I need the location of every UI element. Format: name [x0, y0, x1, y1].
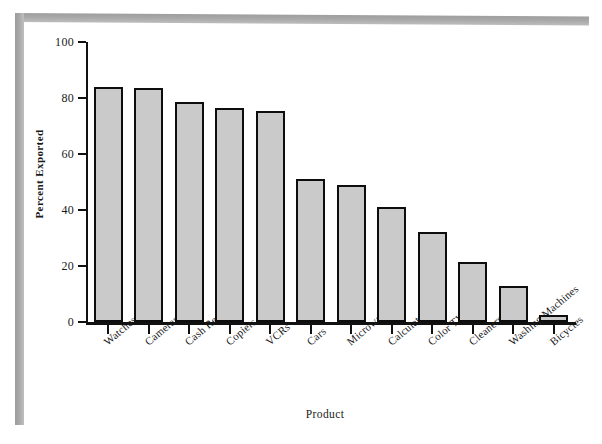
bar: [458, 262, 487, 322]
y-axis-tick-label: 80: [48, 92, 74, 104]
bar: [94, 87, 123, 322]
y-axis-tick: [78, 265, 86, 267]
figure-page: Percent Exported 020406080100WatchesCame…: [0, 0, 602, 444]
y-axis-tick: [78, 209, 86, 211]
bar-chart-plot: Percent Exported 020406080100WatchesCame…: [0, 0, 602, 444]
x-axis-title-text: Product: [306, 408, 345, 420]
y-axis-tick: [78, 153, 86, 155]
bar: [377, 207, 406, 322]
bar: [175, 102, 204, 322]
y-axis-title: Percent Exported: [30, 100, 48, 260]
bar: [418, 232, 447, 322]
y-axis-title-text: Percent Exported: [33, 98, 45, 250]
x-axis-title: Product: [0, 408, 602, 420]
y-axis-tick-label: 20: [48, 260, 74, 272]
bar: [256, 111, 285, 322]
bar: [337, 185, 366, 322]
y-axis-tick-label: 100: [48, 36, 74, 48]
y-axis-tick: [78, 97, 86, 99]
y-axis-tick-label: 60: [48, 148, 74, 160]
x-axis-category-label: Cars: [305, 326, 328, 348]
y-axis-tick-label: 40: [48, 204, 74, 216]
bar: [134, 88, 163, 322]
y-axis-tick: [78, 321, 86, 323]
y-axis-tick: [78, 41, 86, 43]
bar: [296, 179, 325, 322]
y-axis-tick-label: 0: [48, 316, 74, 328]
y-axis-line: [86, 42, 88, 324]
bar: [215, 108, 244, 322]
bar: [539, 315, 568, 322]
bar: [499, 286, 528, 322]
